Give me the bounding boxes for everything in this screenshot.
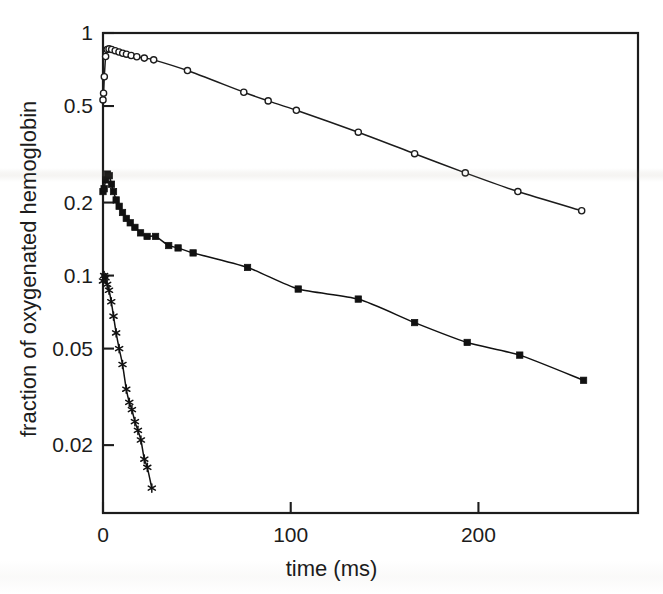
y-axis-title: fraction of oxygenated hemoglobin [16, 101, 42, 437]
tick-marks [103, 33, 478, 513]
x-axis-title: time (ms) [0, 556, 663, 582]
y-axis-tick-label: 1 [3, 22, 93, 43]
axes-frame [103, 33, 638, 513]
x-axis-tick-label: 200 [433, 524, 523, 545]
x-axis-tick-label: 0 [58, 524, 148, 545]
chart-figure: 10.50.20.10.050.02 0100200 time (ms) fra… [0, 0, 663, 594]
series-lines [103, 49, 584, 488]
chart-plot-area [0, 0, 663, 594]
series-markers [99, 46, 586, 492]
x-axis-tick-label: 100 [246, 524, 336, 545]
y-axis-tick-label: 0.02 [3, 434, 93, 455]
